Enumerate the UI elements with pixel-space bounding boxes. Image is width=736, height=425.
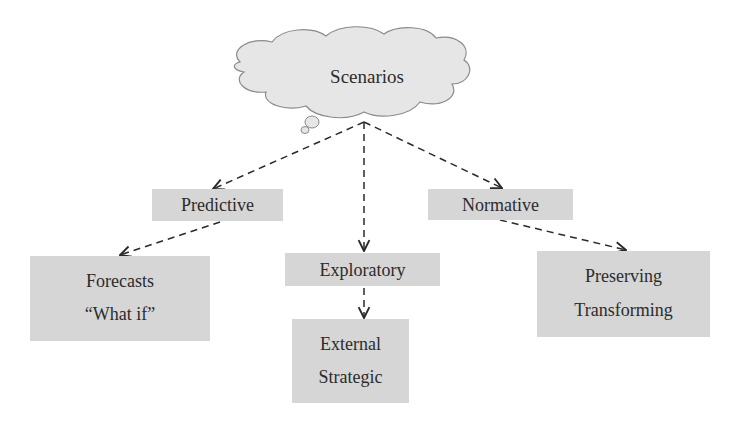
leaf-line-what-if: “What if”: [85, 305, 155, 323]
leaf-line-forecasts: Forecasts: [86, 272, 154, 290]
node-normative: Normative: [428, 189, 573, 220]
node-normative-label: Normative: [462, 196, 539, 214]
leaf-line-preserving: Preserving: [585, 267, 662, 285]
leaf-line-transforming: Transforming: [574, 301, 672, 319]
root-node-label: Scenarios: [322, 66, 412, 88]
leaf-line-external: External: [320, 335, 381, 353]
node-exploratory: Exploratory: [285, 253, 440, 286]
thought-bubbles: [301, 116, 319, 134]
node-predictive-label: Predictive: [181, 196, 254, 214]
edge-normative-preserving: [500, 220, 626, 250]
edge-predictive-forecasts: [120, 222, 220, 255]
edge-scenarios-normative: [364, 122, 502, 188]
scenario-typology-diagram: Scenarios Predictive Exploratory Normati…: [0, 0, 736, 425]
node-exploratory-label: Exploratory: [320, 261, 406, 279]
node-external-strategic: External Strategic: [292, 319, 409, 403]
edge-scenarios-predictive: [213, 122, 364, 189]
node-forecasts-whatif: Forecasts “What if”: [30, 256, 210, 341]
node-preserving-transforming: Preserving Transforming: [537, 251, 710, 337]
node-predictive: Predictive: [152, 189, 283, 221]
leaf-line-strategic: Strategic: [319, 368, 383, 386]
